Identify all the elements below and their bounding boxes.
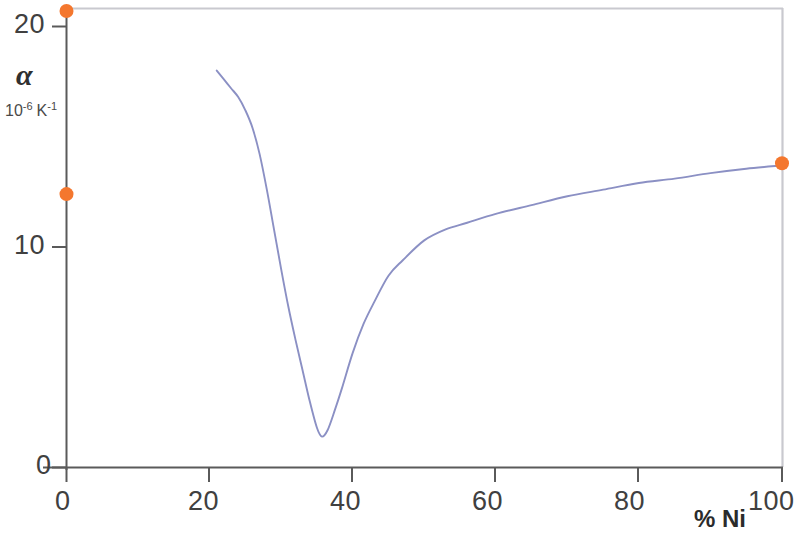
y-units-exponent-2: -1 (47, 100, 57, 112)
x-axis-tick-label-60: 60 (472, 486, 503, 517)
x-axis-title: % Ni (694, 505, 746, 533)
y-axis-title-units: 10-6K-1 (5, 100, 57, 120)
data-point-marker-1 (60, 187, 74, 201)
y-axis-tick-label-20: 20 (14, 9, 45, 40)
x-axis-tick-label-100: 100 (748, 486, 795, 517)
y-units-kelvin: K (37, 102, 48, 119)
x-axis-tick-label-80: 80 (614, 486, 645, 517)
chart-figure: 20 10 0 0 20 40 60 80 100 α 10-6K-1 % Ni (0, 0, 803, 537)
y-units-exponent-1: -6 (23, 100, 33, 112)
x-axis-tick-label-40: 40 (330, 486, 361, 517)
data-line-series-0 (217, 71, 782, 437)
x-axis-tick-label-0: 0 (55, 486, 71, 517)
y-axis-tick-label-0: 0 (36, 450, 52, 481)
data-series-group (60, 4, 790, 437)
y-units-base: 10 (5, 102, 23, 119)
y-axis-title-symbol: α (16, 58, 33, 92)
data-point-marker-2 (775, 156, 789, 170)
y-axis-tick-label-10: 10 (14, 230, 45, 261)
x-axis-tick-label-20: 20 (188, 486, 219, 517)
chart-plot-svg (0, 0, 803, 537)
data-point-marker-0 (60, 4, 74, 18)
